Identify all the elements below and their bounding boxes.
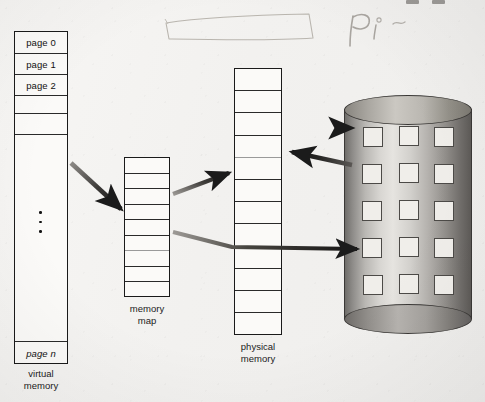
virtual-memory-cell-page-0: page 0 xyxy=(15,32,67,54)
disk-slot xyxy=(362,238,382,258)
disk-slot xyxy=(362,201,382,221)
virtual-memory-cell-page-1: page 1 xyxy=(15,54,67,75)
virtual-memory-cell-label: page 2 xyxy=(26,80,56,91)
arrow-memory-map-to-physical-memory xyxy=(173,173,229,194)
virtual-memory-cell-page-2: page 2 xyxy=(15,75,67,96)
physical-memory-cell xyxy=(235,69,281,91)
disk-slot xyxy=(399,237,419,257)
disk-cylinder xyxy=(344,95,472,333)
disk-slot xyxy=(434,238,454,258)
disk-slot-grid xyxy=(344,109,472,319)
disk-slot xyxy=(399,274,419,294)
virtual-memory-cell-label: page 0 xyxy=(26,37,56,48)
diagram-canvas: page 0 page 1 page 2 page n virtual memo… xyxy=(0,0,485,402)
memory-map-cell xyxy=(125,251,169,267)
arrow-disk-to-physical-memory xyxy=(292,152,352,165)
virtual-memory-cell-page-n: page n xyxy=(15,342,67,365)
memory-map-cell xyxy=(125,174,169,190)
physical-memory-cell xyxy=(235,113,281,135)
disk-slot xyxy=(399,163,419,183)
virtual-memory-cell-empty-1 xyxy=(15,96,67,114)
memory-map-caption: memory map xyxy=(111,303,183,326)
disk-slot xyxy=(399,200,419,220)
physical-memory-cell xyxy=(235,291,281,313)
disk-slot xyxy=(362,164,382,184)
ellipsis-dot xyxy=(39,230,42,233)
physical-memory-cell xyxy=(235,202,281,224)
physical-memory-cell xyxy=(235,247,281,269)
disk-slot xyxy=(434,201,454,221)
disk-slot xyxy=(434,164,454,184)
virtual-memory-caption: virtual memory xyxy=(5,368,77,391)
memory-map-cell xyxy=(125,189,169,205)
physical-memory-cell xyxy=(235,224,281,246)
memory-map-cell xyxy=(125,220,169,236)
physical-memory-cell xyxy=(235,136,281,158)
memory-map-cell xyxy=(125,205,169,221)
memory-map-cell xyxy=(125,236,169,252)
pencil-note-pi xyxy=(345,8,415,50)
physical-memory-cell xyxy=(235,269,281,291)
disk-slot xyxy=(363,127,383,147)
virtual-memory-column: page 0 page 1 page 2 page n xyxy=(14,31,68,364)
pencil-rectangle-annotation xyxy=(163,12,315,42)
physical-memory-cell xyxy=(235,91,281,113)
physical-memory-cell xyxy=(235,158,281,180)
arrow-virtual-memory-to-memory-map xyxy=(71,163,121,209)
physical-memory-caption: physical memory xyxy=(222,341,294,364)
disk-slot xyxy=(434,127,454,147)
memory-map-cell xyxy=(125,282,169,298)
virtual-memory-ellipsis xyxy=(39,211,42,233)
virtual-memory-cell-gap xyxy=(15,135,67,342)
physical-memory-column xyxy=(234,68,282,335)
ellipsis-dot xyxy=(39,221,42,224)
memory-map-cell xyxy=(125,158,169,174)
scan-edge-mark-left xyxy=(406,0,419,4)
memory-map-cell xyxy=(125,267,169,283)
virtual-memory-cell-label: page n xyxy=(26,348,56,359)
ellipsis-dot xyxy=(39,211,42,214)
memory-map-column xyxy=(124,157,170,297)
virtual-memory-cell-label: page 1 xyxy=(26,59,56,70)
disk-slot xyxy=(434,275,454,295)
physical-memory-cell xyxy=(235,180,281,202)
physical-memory-cell xyxy=(235,313,281,335)
disk-slot xyxy=(399,126,419,146)
virtual-memory-cell-empty-2 xyxy=(15,114,67,135)
scan-edge-mark-right xyxy=(432,0,445,4)
disk-slot xyxy=(363,275,383,295)
